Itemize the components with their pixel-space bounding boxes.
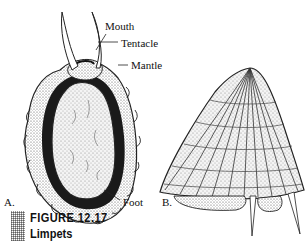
figure-title: Limpets: [30, 226, 72, 241]
panel-letter-b: B.: [162, 196, 172, 208]
caption-swatch: [11, 211, 25, 241]
label-mouth: Mouth: [105, 20, 134, 32]
label-tentacle: Tentacle: [121, 37, 158, 49]
panel-letter-a: A.: [4, 196, 15, 208]
label-mantle: Mantle: [131, 59, 162, 71]
figure-number: FIGURE 12.17: [30, 210, 108, 225]
label-foot: Foot: [123, 196, 143, 208]
